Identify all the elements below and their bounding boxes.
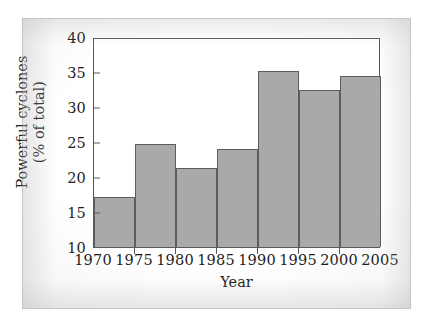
bar-1995: [299, 90, 340, 248]
x-tick-label-2005: 2005: [361, 252, 399, 268]
x-tick-label-2000: 2000: [320, 252, 358, 268]
y-tick-mark-30: [93, 108, 100, 109]
y-axis-title-line2: (% of total): [31, 37, 48, 207]
y-tick-label-30: 30: [67, 100, 86, 116]
x-tick-label-1995: 1995: [279, 252, 317, 268]
plot-area: [93, 38, 380, 248]
x-axis-title: Year: [93, 274, 380, 290]
bar-1990: [258, 71, 299, 247]
x-tick-mark-1980: [175, 248, 176, 254]
y-tick-mark-15: [93, 213, 100, 214]
x-tick-mark-2000: [339, 248, 340, 254]
x-tick-label-1985: 1985: [197, 252, 235, 268]
y-tick-mark-35: [93, 73, 100, 74]
x-tick-mark-1990: [257, 248, 258, 254]
y-tick-label-20: 20: [67, 170, 86, 186]
x-tick-label-1990: 1990: [238, 252, 276, 268]
bar-1970: [94, 197, 135, 247]
y-tick-mark-25: [93, 143, 100, 144]
y-tick-mark-20: [93, 178, 100, 179]
bar-1975: [135, 144, 176, 247]
figure-container: 10152025303540 1970197519801985199019952…: [0, 0, 432, 328]
y-axis-title: Powerful cyclones (% of total): [14, 37, 48, 207]
bar-2000: [340, 76, 381, 248]
y-tick-label-40: 40: [67, 30, 86, 46]
x-tick-mark-1995: [298, 248, 299, 254]
y-tick-label-25: 25: [67, 135, 86, 151]
x-tick-label-1975: 1975: [115, 252, 153, 268]
x-tick-mark-1975: [134, 248, 135, 254]
y-tick-label-15: 15: [67, 205, 86, 221]
x-tick-mark-1985: [216, 248, 217, 254]
x-tick-label-1980: 1980: [156, 252, 194, 268]
y-tick-label-35: 35: [67, 65, 86, 81]
bar-1980: [176, 168, 217, 247]
bar-1985: [217, 149, 258, 247]
y-axis-title-line1: Powerful cyclones: [14, 37, 31, 207]
x-tick-label-1970: 1970: [74, 252, 112, 268]
